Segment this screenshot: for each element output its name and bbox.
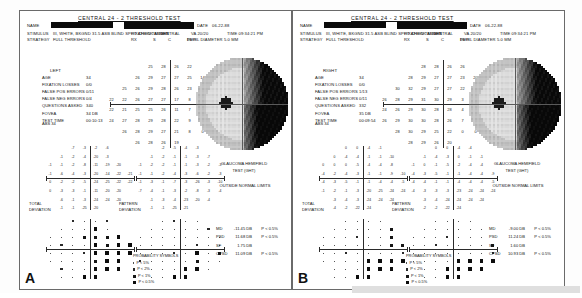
axis-tick [136, 247, 137, 252]
probability-symbol [84, 269, 85, 270]
threshold-value: -1 [161, 206, 164, 210]
global-index-pvalue [252, 242, 278, 250]
probability-symbol [117, 243, 120, 246]
reliability-row: AGE34 [42, 74, 120, 81]
threshold-value: -10 [400, 172, 405, 176]
time-value: TIME 09:34:21 PM [500, 31, 536, 36]
threshold-value: 22 [109, 107, 113, 112]
threshold-value: -3 [218, 172, 221, 176]
probability-legend-row: P < 1% [406, 273, 451, 280]
threshold-value: 27 [434, 75, 438, 80]
probability-symbol [334, 253, 335, 254]
grayscale-cell [543, 138, 545, 140]
threshold-value: -3 [60, 189, 63, 193]
threshold-value: -3 [173, 189, 176, 193]
probability-symbol [458, 245, 459, 246]
threshold-value: -1 [49, 172, 52, 176]
threshold-value: -1 [173, 163, 176, 167]
probability-symbol [72, 229, 73, 230]
probability-symbol [380, 237, 381, 238]
threshold-value: 21 [174, 129, 178, 134]
threshold-value: -7 [207, 155, 210, 159]
threshold-value: 0 [356, 146, 358, 150]
threshold-value: 28 [434, 118, 438, 123]
threshold-value: -3 [184, 172, 187, 176]
probability-symbol [390, 244, 393, 247]
threshold-value: 28 [447, 107, 451, 112]
probability-symbol [140, 237, 141, 238]
probability-symbol [481, 237, 482, 238]
threshold-value: 28 [408, 75, 412, 80]
visual-acuity: VA 20/20 [464, 31, 481, 36]
probability-symbol [457, 267, 460, 270]
threshold-value: 28 [161, 85, 165, 90]
threshold-value: -4 [83, 155, 86, 159]
axis-tick [319, 247, 320, 252]
threshold-value: -4 [207, 198, 210, 202]
threshold-value: 27 [122, 118, 126, 123]
vertical-axis [453, 219, 454, 279]
threshold-value: -3 [71, 189, 74, 193]
probability-symbol [105, 267, 108, 270]
probability-symbol [107, 229, 108, 230]
threshold-value: 31 [421, 96, 425, 101]
reliability-indices: RIGHTAGE34FIXATION LOSSES0/0FALSE POS ER… [315, 67, 393, 124]
threshold-value: -24 [400, 189, 405, 193]
threshold-value: -4 [344, 155, 347, 159]
probability-legend-swatch [406, 268, 408, 270]
threshold-value: -22 [127, 180, 132, 184]
probability-symbol [50, 237, 51, 238]
probability-symbol [208, 269, 209, 270]
probability-symbol [162, 221, 163, 222]
threshold-value: 22 [109, 96, 113, 101]
probability-legend-title: PROBABILITY SYMBOLS [133, 253, 178, 260]
global-index-key: MD [489, 225, 503, 233]
threshold-value: -5 [344, 180, 347, 184]
probability-symbol [72, 269, 73, 270]
probability-symbol [72, 253, 73, 254]
probability-symbol [195, 267, 198, 270]
probability-symbol [72, 245, 73, 246]
threshold-value: -1 [139, 172, 142, 176]
threshold-value: -1 [139, 180, 142, 184]
probability-symbol [357, 221, 358, 222]
axis-tick [136, 176, 137, 181]
grayscale-cell [272, 136, 274, 138]
threshold-value: -1 [480, 155, 483, 159]
threshold-value: -3 [218, 163, 221, 167]
probability-legend-row: P < 2% [406, 266, 451, 273]
threshold-value: 22 [122, 96, 126, 101]
threshold-value: -4 [480, 180, 483, 184]
threshold-value: -8 [196, 189, 199, 193]
grayscale-cell [535, 144, 537, 146]
axis-tick [46, 247, 47, 252]
threshold-value: -4 [412, 189, 415, 193]
threshold-value: -21 [127, 172, 132, 176]
rx-label: RX [404, 37, 410, 42]
probability-symbol [380, 245, 381, 246]
probability-legend-text: P < 2% [137, 266, 150, 273]
threshold-value: 0 [49, 180, 51, 184]
probability-legend-text: P < 0.5% [138, 279, 154, 286]
probability-symbol [435, 221, 436, 222]
threshold-value: -24 [93, 198, 98, 202]
rx-sphere: S [426, 37, 429, 42]
threshold-value: -4 [480, 163, 483, 167]
date-label: DATE [197, 23, 208, 28]
threshold-value: -3 [423, 198, 426, 202]
threshold-value: -4 [469, 146, 472, 150]
threshold-value: -3 [196, 146, 199, 150]
threshold-value: -1 [184, 155, 187, 159]
threshold-value: -1 [446, 172, 449, 176]
probability-symbol [481, 229, 482, 230]
threshold-value: -4 [150, 189, 153, 193]
threshold-value: -3 [83, 146, 86, 150]
probability-symbol [173, 220, 175, 222]
probability-symbol [391, 253, 392, 254]
threshold-value: -3 [356, 198, 359, 202]
probability-symbol [94, 227, 97, 230]
threshold-value: -4 [434, 155, 437, 159]
probability-symbol [197, 221, 198, 222]
grayscale-map [196, 58, 288, 150]
threshold-value: -1 [60, 163, 63, 167]
